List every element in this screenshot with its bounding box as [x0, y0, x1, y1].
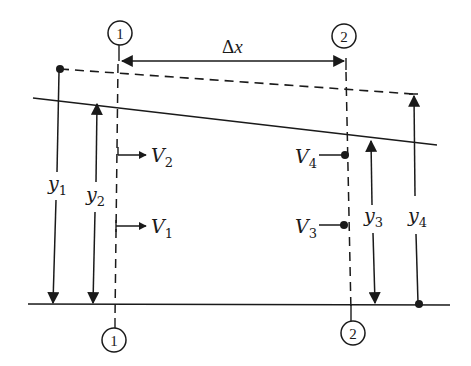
section-1-bottom-label: 1	[110, 333, 118, 349]
y3-arrow-down	[373, 233, 375, 303]
flow-diagram: 1 1 2 2 Δx y1 y2 V2 V1	[0, 0, 471, 366]
energy-line-point	[56, 65, 64, 73]
y2-arrow-down	[93, 212, 95, 303]
section-1-dashed-line	[115, 64, 118, 318]
y4-arrow-up	[414, 96, 415, 196]
energy-line	[60, 69, 413, 94]
y3-label: y3	[363, 204, 383, 230]
v4-point	[341, 151, 349, 159]
channel-bottom-line	[28, 304, 450, 305]
section-2-top-label: 2	[340, 29, 348, 45]
v4-label: V4	[295, 145, 317, 171]
y4-label: y4	[407, 204, 427, 230]
y1-line-upper	[57, 72, 59, 172]
depth-y1: y1	[47, 72, 67, 303]
v3-point	[340, 221, 348, 229]
section-2-bottom-label: 2	[349, 326, 357, 342]
y1-label: y1	[47, 172, 67, 198]
y4-line-lower	[416, 234, 418, 303]
section-2: 2 2	[332, 24, 365, 345]
section-1-top-label: 1	[116, 26, 124, 42]
y3-arrow-up	[371, 141, 372, 205]
velocity-v3: V3	[295, 215, 348, 241]
y2-arrow-up	[96, 104, 97, 182]
velocity-v4: V4	[295, 145, 349, 171]
water-surface-line	[33, 98, 437, 145]
depth-y2: y2	[85, 104, 105, 303]
v3-label: V3	[295, 215, 317, 241]
v2-label: V2	[151, 144, 173, 170]
section-1: 1 1	[102, 21, 132, 352]
y1-arrow	[53, 200, 56, 303]
v1-label: V1	[151, 215, 173, 241]
y4-point	[415, 300, 423, 308]
velocity-v2: V2	[118, 144, 173, 170]
y2-label: y2	[85, 183, 105, 209]
depth-y3: y3	[363, 141, 383, 303]
depth-y4: y4	[407, 94, 427, 308]
section-2-dashed-line	[346, 72, 351, 312]
velocity-v1: V1	[116, 215, 173, 241]
delta-x-label: Δx	[222, 36, 243, 57]
